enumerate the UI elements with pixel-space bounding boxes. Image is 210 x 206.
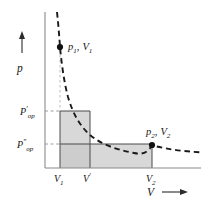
point-label-p1-v1: p1,V1 [67, 41, 92, 55]
y-tick-label-p-op-double-prime: P″op [16, 138, 34, 153]
x-tick-1-sub: 1 [60, 179, 64, 187]
y-tick-1-base: P [19, 106, 26, 117]
x-tick-3-sub: 2 [152, 179, 156, 187]
x-tick-label-v-prime: V′ [83, 172, 91, 184]
point-label-p2-v2: p2,V2 [145, 126, 171, 140]
pv-diagram-figure: p V P′op P″op V1 V′ V2 p1,V1 p2,V2 [0, 0, 210, 206]
x-tick-label-v2: V2 [146, 173, 156, 187]
p-axis-arrow-head-icon [19, 31, 25, 39]
p2-label-v-sub: 2 [167, 132, 171, 140]
x-axis-label: V [147, 186, 156, 198]
v-axis-arrow-head-icon [180, 189, 188, 195]
work-rectangle-stage-2 [60, 144, 152, 168]
p1-label-v-sub: 1 [89, 47, 93, 55]
y-axis-label: p [16, 62, 23, 75]
point-p1 [57, 44, 63, 50]
point-p2 [149, 142, 155, 148]
p2-label-comma: , [155, 126, 158, 137]
x-tick-label-v1: V1 [54, 173, 64, 187]
y-tick-label-p-op-prime: P′op [19, 105, 35, 120]
y-tick-2-base: P [16, 139, 23, 150]
figure-canvas: p V P′op P″op V1 V′ V2 p1,V1 p2,V2 [0, 0, 210, 206]
y-tick-2-sub: op [26, 145, 34, 153]
y-tick-1-sub: op [28, 112, 36, 120]
p1-label-comma: , [77, 41, 80, 52]
x-tick-2-prime: ′ [89, 172, 91, 181]
